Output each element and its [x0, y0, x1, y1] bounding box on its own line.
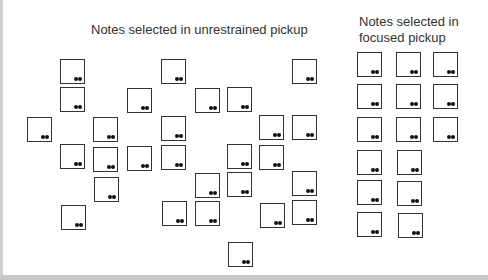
note-dots-icon [306, 133, 314, 137]
note-dots-icon [141, 164, 149, 168]
note-box [357, 117, 382, 142]
note-box [433, 52, 458, 77]
note-dots-icon [447, 70, 455, 74]
note-box [195, 173, 220, 198]
left-border [0, 0, 3, 275]
note-box [396, 84, 421, 109]
note-dots-icon [108, 195, 116, 199]
note-box [60, 59, 85, 84]
note-dots-icon [410, 70, 418, 74]
note-dots-icon [306, 189, 314, 193]
note-dots-icon [175, 163, 183, 167]
note-box [292, 171, 317, 196]
note-dots-icon [410, 135, 418, 139]
note-dots-icon [447, 135, 455, 139]
note-box [127, 88, 152, 113]
note-dots-icon [371, 135, 379, 139]
note-box [292, 59, 317, 84]
note-dots-icon [447, 102, 455, 106]
note-box [227, 172, 252, 197]
unrestrained-pickup-title: Notes selected in unrestrained pickup [91, 22, 308, 38]
note-dots-icon [306, 218, 314, 222]
note-box [396, 52, 421, 77]
note-box [228, 242, 253, 267]
note-dots-icon [75, 223, 83, 227]
note-box [292, 200, 317, 225]
note-dots-icon [371, 230, 379, 234]
note-box [259, 145, 284, 170]
note-dots-icon [209, 191, 217, 195]
note-dots-icon [371, 168, 379, 172]
note-dots-icon [242, 260, 250, 264]
note-box [259, 115, 284, 140]
note-dots-icon [74, 77, 82, 81]
note-dots-icon [241, 162, 249, 166]
note-box [292, 115, 317, 140]
note-dots-icon [273, 163, 281, 167]
note-dots-icon [241, 105, 249, 109]
note-dots-icon [176, 219, 184, 223]
note-box [27, 117, 52, 142]
note-dots-icon [141, 106, 149, 110]
note-dots-icon [74, 105, 82, 109]
note-box [195, 201, 220, 226]
note-box [357, 84, 382, 109]
note-box [60, 87, 85, 112]
note-box [433, 84, 458, 109]
note-dots-icon [209, 219, 217, 223]
note-dots-icon [273, 133, 281, 137]
note-box [61, 205, 86, 230]
note-dots-icon [371, 70, 379, 74]
note-box [227, 144, 252, 169]
note-dots-icon [175, 77, 183, 81]
note-box [162, 201, 187, 226]
note-dots-icon [411, 199, 419, 203]
note-box [161, 116, 186, 141]
note-box [433, 117, 458, 142]
note-box [397, 181, 422, 206]
note-box [93, 147, 118, 172]
note-dots-icon [410, 102, 418, 106]
note-box [227, 87, 252, 112]
note-box [396, 117, 421, 142]
note-dots-icon [41, 135, 49, 139]
note-box [93, 117, 118, 142]
note-dots-icon [411, 168, 419, 172]
note-box [60, 144, 85, 169]
note-box [161, 145, 186, 170]
focused-pickup-title-line1: Notes selected in [359, 14, 459, 30]
note-dots-icon [371, 198, 379, 202]
note-box [94, 177, 119, 202]
note-dots-icon [274, 221, 282, 225]
note-dots-icon [412, 231, 420, 235]
note-dots-icon [74, 162, 82, 166]
note-dots-icon [209, 106, 217, 110]
note-box [161, 59, 186, 84]
note-box [127, 146, 152, 171]
note-box [397, 150, 422, 175]
note-dots-icon [371, 102, 379, 106]
note-box [357, 52, 382, 77]
note-box [357, 150, 382, 175]
bottom-border [0, 275, 488, 280]
note-box [398, 213, 423, 238]
note-dots-icon [107, 135, 115, 139]
note-dots-icon [175, 134, 183, 138]
note-dots-icon [107, 165, 115, 169]
note-box [260, 203, 285, 228]
note-box [195, 88, 220, 113]
note-box [357, 212, 382, 237]
note-dots-icon [306, 77, 314, 81]
note-box [357, 180, 382, 205]
note-dots-icon [241, 190, 249, 194]
focused-pickup-title-line2: focused pickup [359, 30, 446, 46]
